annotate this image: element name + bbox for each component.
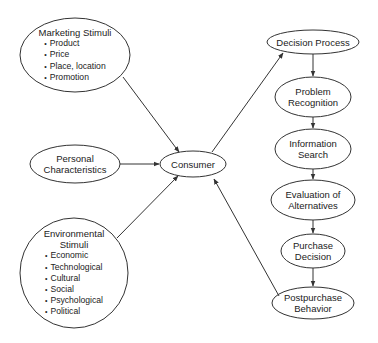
- evaluation-line1: Evaluation of: [286, 189, 341, 200]
- problem-line2: Recognition: [288, 97, 338, 108]
- purchase-line1: Purchase: [293, 240, 333, 251]
- environmental-line1: Environmental: [44, 228, 105, 239]
- postpurchase-line1: Postpurchase: [284, 292, 342, 303]
- environmental-stimuli-list: Economic Technological Cultural Social P…: [45, 250, 103, 317]
- environmental-item: Technological: [45, 262, 103, 273]
- environmental-line2: Stimuli: [60, 239, 89, 250]
- evaluation-alternatives-node: Evaluation of Alternatives: [271, 180, 355, 220]
- personal-characteristics-node: Personal Characteristics: [30, 145, 120, 183]
- marketing-stimuli-title: Marketing Stimuli: [39, 27, 112, 38]
- postpurchase-line2: Behavior: [294, 303, 332, 314]
- environmental-item: Social: [45, 284, 103, 295]
- problem-line1: Problem: [295, 86, 330, 97]
- consumer-title: Consumer: [171, 159, 215, 170]
- consumer-node: Consumer: [160, 151, 226, 177]
- environmental-item: Psychological: [45, 295, 103, 306]
- environmental-item: Economic: [45, 250, 103, 261]
- environmental-item: Cultural: [45, 273, 103, 284]
- marketing-item: Product: [44, 38, 105, 49]
- arrow-postpurchase-to-consumer: [214, 179, 279, 296]
- problem-recognition-node: Problem Recognition: [275, 77, 351, 117]
- arrow-marketing-to-consumer: [123, 77, 179, 152]
- marketing-item: Price: [44, 49, 105, 60]
- information-line1: Information: [289, 138, 337, 149]
- environmental-item: Political: [45, 306, 103, 317]
- personal-line2: Characteristics: [44, 164, 107, 175]
- purchase-line2: Decision: [295, 251, 331, 262]
- personal-line1: Personal: [56, 153, 94, 164]
- marketing-stimuli-list: Product Price Place, location Promotion: [44, 38, 105, 83]
- decision-process-node: Decision Process: [267, 30, 359, 54]
- arrow-consumer-to-decision-process: [212, 53, 283, 152]
- marketing-item: Promotion: [44, 72, 105, 83]
- information-line2: Search: [298, 149, 328, 160]
- marketing-item: Place, location: [44, 61, 105, 72]
- decision-process-title: Decision Process: [276, 37, 349, 48]
- purchase-decision-node: Purchase Decision: [281, 234, 345, 268]
- evaluation-line2: Alternatives: [288, 200, 338, 211]
- marketing-stimuli-node: Marketing Stimuli Product Price Place, l…: [20, 18, 130, 92]
- information-search-node: Information Search: [275, 129, 351, 169]
- postpurchase-behavior-node: Postpurchase Behavior: [272, 287, 354, 319]
- environmental-stimuli-node: Environmental Stimuli Economic Technolog…: [20, 218, 128, 328]
